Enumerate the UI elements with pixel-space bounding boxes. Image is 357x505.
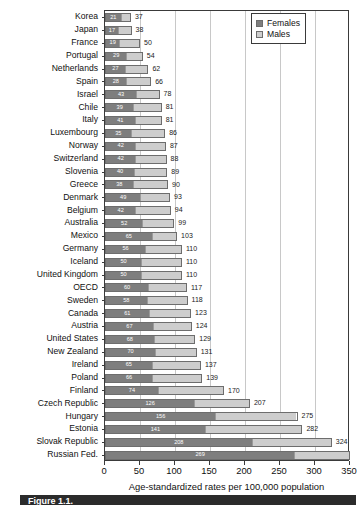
legend-item-males: Males	[256, 29, 300, 39]
category-label: Belgium	[0, 203, 101, 216]
bar-segment-females: 208	[106, 439, 252, 446]
bar-row: 66139	[105, 372, 348, 385]
stacked-bar: 56	[105, 245, 182, 254]
category-label: Netherlands	[0, 62, 101, 75]
total-value-label: 89	[171, 167, 179, 176]
bar-segment-females: 21	[106, 14, 121, 21]
category-label: Portugal	[0, 49, 101, 62]
legend-item-females: Females	[256, 18, 300, 28]
bar-row: 58118	[105, 294, 348, 307]
stacked-bar: 58	[105, 296, 188, 305]
females-value-label: 58	[123, 298, 129, 304]
total-value-label: 207	[254, 398, 266, 407]
bar-segment-females: 38	[106, 181, 133, 188]
bar-row: 68129	[105, 333, 348, 346]
bar-segment-males	[134, 169, 166, 176]
bar-segment-females: 156	[106, 413, 215, 420]
caption-text: Figure 1.1.	[28, 496, 73, 505]
females-value-label: 61	[124, 311, 130, 317]
category-label: Switzerland	[0, 152, 101, 165]
stacked-bar: 29	[105, 52, 143, 61]
bar-row: 50110	[105, 269, 348, 282]
bar-row: 2762	[105, 63, 348, 76]
stacked-bar: 27	[105, 65, 148, 74]
total-value-label: 86	[169, 128, 177, 137]
bar-row: 70131	[105, 346, 348, 359]
bar-row: 65137	[105, 359, 348, 372]
total-value-label: 99	[178, 218, 186, 227]
bar-row: 4181	[105, 114, 348, 127]
females-value-label: 50	[120, 259, 126, 265]
bar-row: 56110	[105, 243, 348, 256]
stacked-bar: 60	[105, 283, 187, 292]
bar-segment-females: 43	[106, 91, 136, 98]
x-axis-tick-label: 0	[101, 465, 106, 476]
females-value-label: 60	[124, 285, 130, 291]
total-value-label: 94	[175, 205, 183, 214]
females-value-label: 41	[117, 118, 123, 124]
legend-label-males: Males	[267, 29, 290, 39]
bar-segment-males	[126, 53, 142, 60]
bar-segment-males	[194, 400, 249, 407]
bar-segment-females: 52	[106, 220, 142, 227]
bar-segment-males	[131, 130, 165, 137]
females-value-label: 19	[110, 40, 116, 46]
bar-row: 4378	[105, 88, 348, 101]
total-value-label: 118	[192, 295, 203, 304]
total-value-label: 139	[206, 373, 218, 382]
x-axis-tick-label: 50	[134, 465, 144, 476]
bar-segment-males	[135, 156, 165, 163]
stacked-bar: 156	[105, 412, 298, 421]
category-label: Luxembourg	[0, 126, 101, 139]
stacked-bar: 21	[105, 13, 131, 22]
bar-row: 5299	[105, 217, 348, 230]
bar-segment-males	[153, 323, 191, 330]
bar-row: 50110	[105, 256, 348, 269]
bar-segment-males	[140, 194, 169, 201]
stacked-bar: 28	[105, 77, 151, 86]
females-value-label: 65	[126, 234, 132, 240]
stacked-bar: 74	[105, 386, 224, 395]
total-value-label: 93	[174, 192, 182, 201]
stacked-bar: 70	[105, 348, 197, 357]
total-value-label: 110	[186, 244, 197, 253]
category-label: Canada	[0, 306, 101, 319]
total-value-label: 54	[147, 51, 155, 60]
category-label: Italy	[0, 113, 101, 126]
bar-segment-females: 17	[106, 27, 118, 34]
stacked-bar: 208	[105, 438, 332, 447]
category-label: Slovenia	[0, 165, 101, 178]
bar-row: 61123	[105, 307, 348, 320]
x-axis-tick-label: 350	[341, 465, 357, 476]
bar-segment-males	[135, 207, 169, 214]
females-value-label: 39	[117, 105, 123, 111]
stacked-bar: 65	[105, 232, 177, 241]
x-axis: 050100150200250300350	[104, 461, 349, 479]
total-value-label: 110	[186, 257, 197, 266]
bar-segment-females: 56	[106, 246, 145, 253]
total-value-label: 78	[164, 89, 172, 98]
bar-row: 1738	[105, 24, 348, 37]
category-label: New Zealand	[0, 345, 101, 358]
bar-segment-males	[119, 40, 139, 47]
x-axis-tick-label: 100	[166, 465, 182, 476]
category-label: Korea	[0, 10, 101, 23]
x-axis-tick-label: 300	[306, 465, 322, 476]
bar-segment-males	[142, 220, 173, 227]
bar-row: 141282	[105, 423, 348, 436]
total-value-label: 81	[166, 102, 174, 111]
females-value-label: 27	[112, 66, 118, 72]
bar-segment-females: 74	[106, 387, 158, 394]
bar-row: 3890	[105, 178, 348, 191]
total-value-label: 37	[135, 12, 143, 21]
bar-segment-males	[126, 78, 151, 85]
stacked-bar: 50	[105, 271, 182, 280]
total-value-label: 90	[172, 180, 180, 189]
x-axis-tick-label: 150	[201, 465, 217, 476]
total-value-label: 131	[201, 347, 213, 356]
females-value-label: 17	[109, 28, 115, 34]
total-value-label: 66	[155, 77, 163, 86]
females-value-label: 35	[115, 131, 121, 137]
bar-segment-females: 49	[106, 194, 140, 201]
bar-row: 2954	[105, 50, 348, 63]
